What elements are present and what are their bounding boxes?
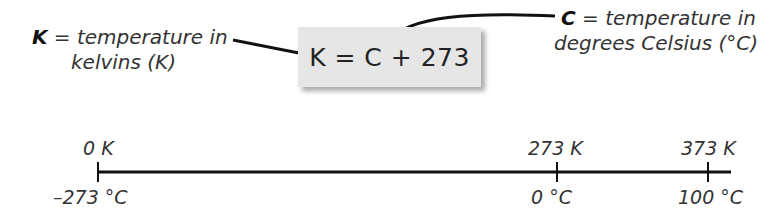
tick-label-celsius-1: 0 °C: [531, 186, 572, 208]
k-definition-line1: K = temperature in: [32, 25, 228, 49]
tick-label-celsius-2: 100 °C: [678, 186, 743, 208]
tick-label-kelvin-2: 373 K: [681, 137, 736, 159]
equation-box: K = C + 273: [298, 27, 481, 87]
equation-text: K = C + 273: [298, 27, 481, 87]
k-definition-line2: kelvins (K): [71, 50, 176, 74]
c-definition-line1: C = temperature in: [561, 6, 756, 30]
tick-label-kelvin-0: 0 K: [83, 137, 114, 159]
c-definition-line2: degrees Celsius (°C): [554, 31, 758, 55]
tick-label-celsius-0: –273 °C: [53, 186, 128, 208]
tick-label-kelvin-1: 273 K: [528, 137, 583, 159]
